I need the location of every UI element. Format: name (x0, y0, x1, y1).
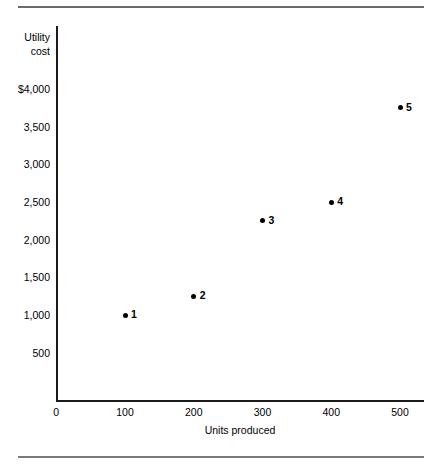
x-tick-label: 100 (105, 406, 145, 418)
data-point-marker (329, 200, 334, 205)
data-point-label: 1 (131, 309, 137, 320)
data-point-label: 2 (200, 290, 206, 301)
x-tick-label: 300 (243, 406, 283, 418)
scatter-plot: Utility cost Units produced 5001,0001,50… (0, 0, 446, 469)
y-axis-title: Utility cost (8, 30, 50, 58)
y-axis-line (56, 26, 58, 401)
data-point-label: 5 (406, 102, 412, 113)
y-axis-title-line2: cost (8, 44, 50, 58)
y-tick-label: $4,000 (2, 83, 50, 95)
data-point-label: 4 (337, 196, 343, 207)
y-tick-label: 3,000 (2, 158, 50, 170)
data-point-label: 3 (269, 215, 275, 226)
x-tick-label: 400 (311, 406, 351, 418)
y-tick-label: 1,500 (2, 271, 50, 283)
y-tick-label: 3,500 (2, 121, 50, 133)
x-axis-title: Units produced (56, 424, 424, 436)
y-tick-label: 1,000 (2, 309, 50, 321)
x-tick-label: 0 (36, 406, 76, 418)
data-point-marker (260, 218, 265, 223)
x-axis-line (56, 400, 424, 402)
x-tick-label: 500 (380, 406, 420, 418)
x-tick-label: 200 (174, 406, 214, 418)
y-tick-label: 2,000 (2, 234, 50, 246)
data-point-marker (191, 294, 196, 299)
y-tick-label: 2,500 (2, 196, 50, 208)
data-point-marker (398, 105, 403, 110)
data-point-marker (123, 313, 128, 318)
y-axis-title-line1: Utility (8, 30, 50, 44)
y-tick-label: 500 (2, 347, 50, 359)
